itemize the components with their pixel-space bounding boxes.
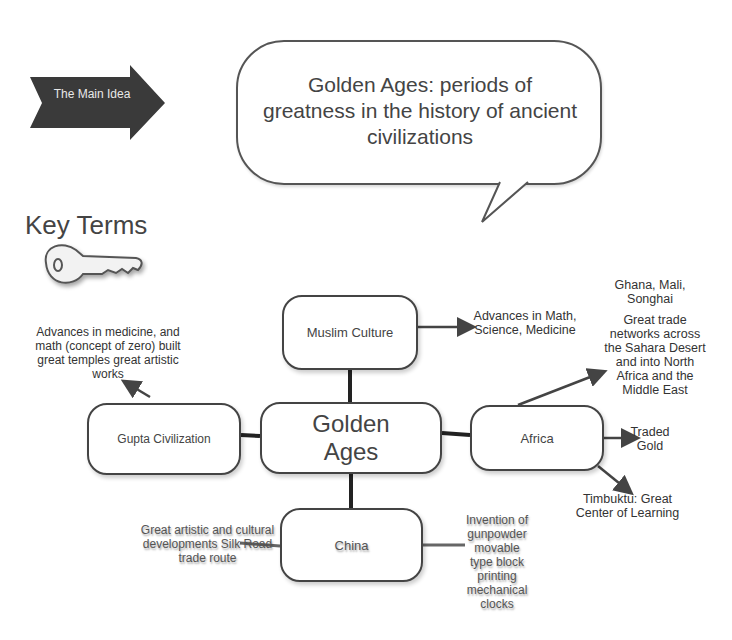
note-muslim: Advances in Math, Science, Medicine xyxy=(470,309,580,337)
node-label: Golden Ages xyxy=(301,410,401,466)
node-africa: Africa xyxy=(470,405,604,471)
key-terms-title: Key Terms xyxy=(25,210,147,241)
key-icon xyxy=(38,238,148,293)
node-label: China xyxy=(335,538,369,553)
note-china-left: Great artistic and cultural developments… xyxy=(140,523,275,565)
main-idea-text: Golden Ages: periods of greatness in the… xyxy=(260,72,580,150)
note-gupta: Advances in medicine, and math (concept … xyxy=(33,325,183,381)
note-gold: Traded Gold xyxy=(625,425,675,453)
note-china-right: Invention of gunpowder movable type bloc… xyxy=(462,513,532,611)
node-label: Muslim Culture xyxy=(307,325,394,340)
node-china: China xyxy=(280,508,423,582)
note-timbuktu: Timbuktu: Great Center of Learning xyxy=(570,492,685,520)
main-idea-label: The Main Idea xyxy=(52,87,132,101)
node-golden-ages: Golden Ages xyxy=(260,402,442,474)
node-muslim-culture: Muslim Culture xyxy=(282,295,418,370)
speech-bubble-tail xyxy=(470,180,540,225)
main-idea-arrow xyxy=(30,65,165,140)
node-label: Gupta Civilization xyxy=(117,432,210,446)
note-ghana: Ghana, Mali, Songhai xyxy=(600,278,700,306)
note-trade: Great trade networks across the Sahara D… xyxy=(600,313,710,397)
node-label: Africa xyxy=(520,431,553,446)
node-gupta-civilization: Gupta Civilization xyxy=(87,403,241,475)
